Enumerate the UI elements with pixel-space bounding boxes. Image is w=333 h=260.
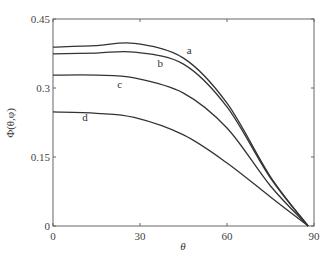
x-tick-label: 90	[309, 230, 321, 242]
curve-label-b: b	[158, 57, 164, 69]
curve-a	[53, 43, 308, 226]
data-series	[53, 43, 308, 226]
x-tick-label: 30	[135, 230, 147, 242]
curve-c	[53, 75, 308, 226]
line-chart: 0306090 00.150.30.45 abcd θ Φ(θ,φ)	[0, 0, 333, 260]
x-tick-label: 0	[50, 230, 56, 242]
y-tick-label: 0.15	[31, 151, 51, 163]
curve-label-d: d	[82, 111, 88, 123]
curve-b	[53, 51, 308, 226]
y-axis-title: Φ(θ,φ)	[4, 108, 17, 138]
curve-label-a: a	[187, 44, 192, 56]
plot-frame	[53, 19, 314, 226]
x-axis-title: θ	[180, 240, 186, 252]
x-axis-ticks: 0306090	[50, 19, 320, 242]
curve-labels: abcd	[82, 44, 192, 124]
curve-d	[53, 112, 308, 226]
y-tick-label: 0	[45, 220, 51, 232]
y-tick-label: 0.3	[36, 82, 50, 94]
curve-label-c: c	[117, 78, 122, 90]
y-tick-label: 0.45	[31, 13, 51, 25]
x-tick-label: 60	[222, 230, 234, 242]
